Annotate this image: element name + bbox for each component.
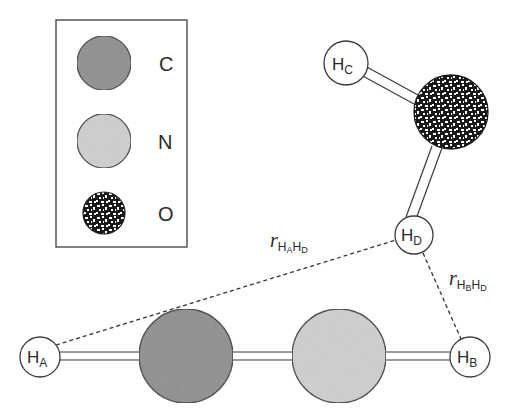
legend: C N O <box>56 20 187 247</box>
distance-label-hb-hd: rHBHD <box>449 267 487 293</box>
distance-symbol: r <box>449 267 457 289</box>
molecule-diagram: C N O <box>0 0 519 417</box>
atom-hb: HB <box>450 337 490 377</box>
legend-label-nitrogen: N <box>158 131 172 153</box>
distance-line-hb-hd <box>423 253 461 339</box>
distance-symbol: r <box>270 229 278 251</box>
oxygen-atom-icon <box>414 75 488 149</box>
legend-label-carbon: C <box>159 53 173 75</box>
atom-hd: HD <box>395 216 433 254</box>
svg-text:rHAHD: rHAHD <box>270 229 308 255</box>
carbon-swatch-icon <box>77 36 131 90</box>
atom-hc: HC <box>324 41 368 85</box>
atom-hc-label: H <box>332 55 344 74</box>
atom-hb-sub: B <box>469 356 477 370</box>
atom-hc-sub: C <box>344 63 353 77</box>
bond-n-hb <box>385 352 450 360</box>
atom-hd-sub: D <box>413 234 422 248</box>
legend-label-oxygen: O <box>158 203 174 225</box>
atom-ha-label: H <box>27 348 39 367</box>
atom-hb-label: H <box>457 348 469 367</box>
atom-ha-sub: A <box>39 356 47 370</box>
atom-ha: HA <box>20 337 60 377</box>
bond-o-hd <box>406 146 442 219</box>
distance-label-ha-hd: rHAHD <box>270 229 308 255</box>
atom-o <box>414 75 488 149</box>
svg-text:rHBHD: rHBHD <box>449 267 487 293</box>
bond-hc-o <box>361 66 418 104</box>
oxygen-swatch-icon <box>83 192 125 234</box>
nitrogen-swatch-icon <box>77 114 131 168</box>
distance-lines <box>56 240 461 345</box>
hcn-bonds <box>60 352 450 360</box>
nitrogen-atom-icon <box>292 309 386 403</box>
atom-c <box>139 309 233 403</box>
atom-n <box>292 309 386 403</box>
carbon-atom-icon <box>139 309 233 403</box>
atom-hd-label: H <box>401 226 413 245</box>
bond-c-n <box>232 352 293 360</box>
bond-ha-c <box>60 352 140 360</box>
